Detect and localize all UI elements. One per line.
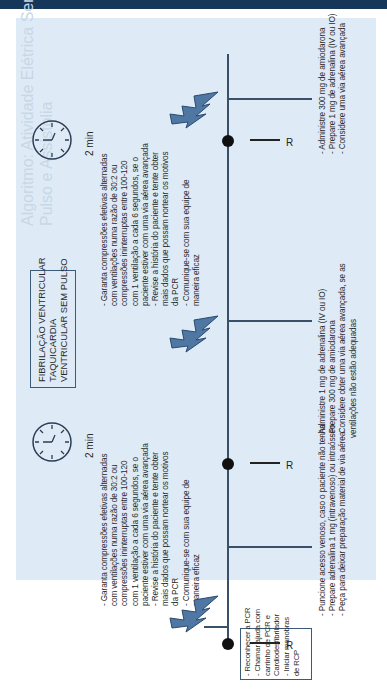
divider-1: [228, 546, 312, 548]
clock-icon: [30, 420, 74, 464]
initial-actions-text: - Reconhecer a PCR - Chamar ajuda com ca…: [243, 628, 302, 676]
stage-3-lower-actions: - Administre 300 mg de amiodarona - Prep…: [318, 14, 349, 154]
cycle-2-actions: - Garanta compressões efetivas alternada…: [100, 143, 202, 306]
algorithm-diagram: Algoritmo: Atividade Elétrica Sem Pulso …: [0, 0, 387, 696]
stage-1-lower-actions: - Puncione acesso venoso, caso o pacient…: [318, 424, 349, 616]
cycle-duration: 2 min: [84, 434, 95, 458]
rhythm-check-label: R: [286, 460, 293, 471]
rhythm-check-label: R: [286, 137, 293, 148]
divider-3: [228, 98, 312, 100]
rhythm-check-dot: [222, 638, 234, 650]
lightning-bolt-icon: [168, 314, 220, 354]
lightning-bolt-icon: [168, 594, 220, 634]
stage-2-lower-actions: - Administre 1 mg de adrenalina (IV ou I…: [318, 263, 359, 438]
rhythm-check-dot: [222, 135, 234, 147]
ghost-header-text: Algoritmo: Atividade Elétrica Sem Pulso …: [18, 0, 56, 226]
rhythm-title: FIBRILAÇÃO VENTRICULAR TAQUICARDIA VENTR…: [36, 257, 69, 382]
rhythm-check-dot: [222, 458, 234, 470]
clock-icon: [30, 118, 74, 162]
cycle-duration: 2 min: [84, 132, 95, 156]
cycle-1-actions: - Garanta compressões efetivas alternada…: [100, 443, 202, 606]
rhythm-check-tick: [250, 139, 280, 141]
lightning-bolt-icon: [168, 90, 220, 130]
divider-2: [228, 320, 312, 322]
rhythm-check-tick: [250, 462, 280, 464]
